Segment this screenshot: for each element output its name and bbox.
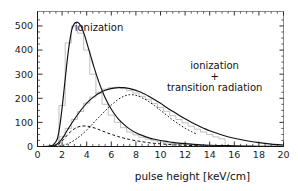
x-axis-title: pulse height [keV/cm] bbox=[135, 170, 250, 182]
y-tick-label: 0 bbox=[27, 141, 33, 152]
chart-figure: 02468101214161820 0100200300400500 ioniz… bbox=[0, 0, 298, 191]
x-tick-label: 6 bbox=[108, 149, 114, 160]
x-tick-label: 20 bbox=[277, 149, 289, 160]
y-tick-label: 200 bbox=[15, 93, 33, 104]
x-tick-label: 0 bbox=[34, 149, 40, 160]
x-tick-label: 8 bbox=[133, 149, 139, 160]
x-tick-label: 2 bbox=[59, 149, 65, 160]
ionization-label: ionization bbox=[75, 22, 124, 33]
x-tick-label: 10 bbox=[154, 149, 166, 160]
y-tick-label: 400 bbox=[15, 44, 33, 55]
x-tick-label: 16 bbox=[228, 149, 240, 160]
y-tick-label: 100 bbox=[15, 117, 33, 128]
x-tick-label: 14 bbox=[204, 149, 216, 160]
y-tick-label: 500 bbox=[15, 20, 33, 31]
ionization-plus-tr-label-line3: transition radiation bbox=[167, 82, 262, 93]
ionization-plus-tr-label-line2: + bbox=[210, 71, 218, 82]
chart-background bbox=[0, 0, 298, 191]
pulse-height-spectrum-chart: 02468101214161820 0100200300400500 ioniz… bbox=[0, 0, 298, 191]
x-tick-label: 18 bbox=[253, 149, 265, 160]
x-tick-label: 4 bbox=[84, 149, 90, 160]
y-tick-label: 300 bbox=[15, 69, 33, 80]
x-tick-label: 12 bbox=[179, 149, 191, 160]
ionization-plus-tr-label-line1: ionization bbox=[190, 60, 239, 71]
